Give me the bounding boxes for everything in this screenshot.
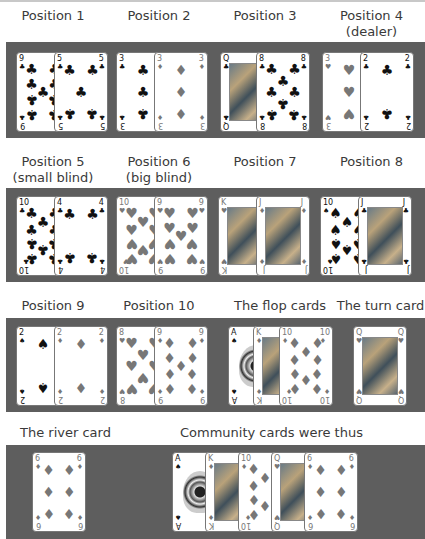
label-position-5-role: (small blind) <box>0 170 106 186</box>
card-index: 9♥ <box>199 257 205 273</box>
card-index: A♠ <box>175 513 181 529</box>
playing-card-p8-2: J♣J♣J♣J♣ <box>358 196 412 276</box>
card-index: A♠ <box>175 455 181 471</box>
card-index: Q♥ <box>398 329 404 345</box>
playing-card-river-1: 6♦6♦6♦6♦♦♦♦♦♦♦ <box>32 452 86 532</box>
suit-pip-icon: ♦ <box>311 353 324 367</box>
playing-card-p10-2: 9♦9♦9♦9♦♦♦♦♦♦♦♦♦♦ <box>154 326 208 406</box>
card-index: 5♣ <box>57 113 63 129</box>
suit-pip-icon: ♠ <box>37 381 50 395</box>
label-position-7: Position 7 <box>212 154 318 170</box>
suit-pip-icon: ♦ <box>335 485 348 499</box>
card-index: 3♥ <box>325 113 331 129</box>
playing-card-p5-2: 4♣4♣4♣4♣♣♣♣♣ <box>54 196 108 276</box>
playing-card-p4-2: 2♣2♣2♣2♣♣♣ <box>360 52 414 132</box>
card-index: 3♣ <box>119 113 125 129</box>
suit-pip-icon: ♦ <box>163 382 176 396</box>
suit-pip-icon: ♦ <box>311 336 324 350</box>
suit-pip-icon: ♦ <box>75 337 88 351</box>
suit-pip-icon: ♥ <box>163 206 176 220</box>
card-index: 6♦ <box>307 513 313 529</box>
suit-pip-icon: ♣ <box>25 223 38 237</box>
suit-pip-icon: ♥ <box>163 252 176 266</box>
court-card-artwork <box>367 207 403 265</box>
card-index: 6♦ <box>349 513 355 529</box>
suit-pip-icon: ♠ <box>329 223 342 237</box>
card-index: 8♣ <box>301 55 307 71</box>
label-turn: The turn card <box>336 298 425 314</box>
suit-pip-icon: ♣ <box>288 108 301 122</box>
suit-pip-icon: ♥ <box>186 252 199 266</box>
card-index: 2♦ <box>57 329 63 345</box>
label-position-2: Position 2 <box>106 8 212 24</box>
suit-pip-icon: ♣ <box>86 207 99 221</box>
card-index: 8♥ <box>119 387 125 403</box>
card-index: 9♣ <box>19 113 25 129</box>
card-index: 3♦ <box>157 55 163 71</box>
suit-pip-icon: ♦ <box>311 382 324 396</box>
label-position-4-role: (dealer) <box>318 24 425 40</box>
card-index: 2♦ <box>57 387 63 403</box>
card-index: 6♦ <box>77 513 83 529</box>
card-index: 9♦ <box>199 329 205 345</box>
suit-pip-icon: ♦ <box>42 485 55 499</box>
card-index: J♦ <box>301 257 307 273</box>
card-index: 2♣ <box>405 113 411 129</box>
card-index: A♠ <box>231 329 237 345</box>
card-index: 3♦ <box>157 113 163 129</box>
court-card-artwork <box>265 207 301 265</box>
label-position-5: Position 5 <box>0 154 106 170</box>
card-index: 2♣ <box>363 113 369 129</box>
playing-card-p2-2: 3♦3♦3♦3♦♦♦♦ <box>154 52 208 132</box>
card-index: J♣ <box>403 257 409 273</box>
card-index: 9♥ <box>157 257 163 273</box>
card-index: 9♦ <box>157 387 163 403</box>
card-index: 3♦ <box>199 113 205 129</box>
court-card-artwork <box>362 337 398 395</box>
label-community: Community cards were thus <box>170 425 425 441</box>
suit-pip-icon: ♦ <box>63 485 76 499</box>
suit-pip-icon: ♦ <box>247 508 260 522</box>
suit-pip-icon: ♣ <box>25 93 38 107</box>
card-index: 6♦ <box>35 513 41 529</box>
card-index: 2♦ <box>99 329 105 345</box>
suit-pip-icon: ♦ <box>288 353 301 367</box>
playing-card-p9-2: 2♦2♦2♦2♦♦♦ <box>54 326 108 406</box>
suit-pip-icon: ♣ <box>288 62 301 76</box>
label-position-6-role: (big blind) <box>106 170 212 186</box>
playing-card-p6-2: 9♥9♥9♥9♥♥♥♥♥♥♥♥♥♥ <box>154 196 208 276</box>
suit-pip-icon: ♥ <box>186 237 199 251</box>
suit-pip-icon: ♣ <box>288 85 301 99</box>
suit-pip-icon: ♦ <box>314 463 327 477</box>
suit-pip-icon: ♦ <box>288 382 301 396</box>
suit-pip-icon: ♥ <box>186 221 199 235</box>
suit-pip-icon: ♥ <box>343 85 356 99</box>
playing-card-p3-2: 8♣8♣8♣8♣♣♣♣♣♣♣♣♣ <box>256 52 310 132</box>
card-index: 9♥ <box>199 199 205 215</box>
card-index: 6♦ <box>77 455 83 471</box>
suit-pip-icon: ♣ <box>137 107 150 121</box>
playing-card-community-5: 6♦6♦6♦6♦♦♦♦♦♦♦ <box>304 452 358 532</box>
suit-pip-icon: ♥ <box>125 382 138 396</box>
label-position-8: Position 8 <box>318 154 425 170</box>
label-position-9: Position 9 <box>0 298 106 314</box>
card-index: 2♠ <box>19 329 25 345</box>
suit-pip-icon: ♣ <box>25 252 38 266</box>
suit-pip-icon: ♦ <box>186 336 199 350</box>
suit-pip-icon: ♦ <box>175 63 188 77</box>
card-index: 6♦ <box>307 455 313 471</box>
suit-pip-icon: ♣ <box>75 85 88 99</box>
suit-pip-icon: ♣ <box>137 85 150 99</box>
card-index: 4♣ <box>57 257 63 273</box>
label-position-3: Position 3 <box>212 8 318 24</box>
card-index: 6♦ <box>35 455 41 471</box>
card-index: 3♣ <box>119 55 125 71</box>
suit-pip-icon: ♦ <box>42 463 55 477</box>
card-index: 4♣ <box>99 199 105 215</box>
suit-pip-icon: ♦ <box>175 85 188 99</box>
suit-pip-icon: ♥ <box>186 206 199 220</box>
suit-pip-icon: ♣ <box>265 108 278 122</box>
label-river: The river card <box>6 425 140 441</box>
suit-pip-icon: ♦ <box>335 507 348 521</box>
label-position-10: Position 10 <box>106 298 212 314</box>
